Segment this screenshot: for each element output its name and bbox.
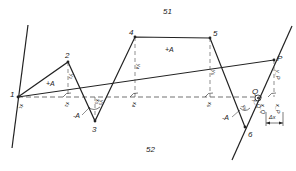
point-label-4: 4 <box>129 28 134 37</box>
yp-label: y_P <box>275 69 281 80</box>
area-label-plus-a-right: +A <box>165 46 174 53</box>
leader-minus-a-right <box>232 110 240 117</box>
x5-label: x₅ <box>207 101 213 108</box>
x4-label: x₄ <box>132 101 138 107</box>
point-5-dot <box>209 37 212 40</box>
x1-label: x₁ <box>19 103 25 109</box>
y4-label: y₄ <box>136 63 142 69</box>
y3-label: y₃ <box>99 99 105 106</box>
y2-label: y₂ <box>69 73 75 80</box>
closing-line-1-p <box>18 60 274 97</box>
region-label-51: 51 <box>163 7 172 16</box>
angle-mark-5 <box>205 93 213 97</box>
y5-label: y₅ <box>211 69 217 76</box>
point-label-p: P <box>277 54 283 63</box>
point-4-dot <box>134 36 137 39</box>
y6-label: y₆ <box>241 103 250 112</box>
point-p-dot <box>273 59 276 62</box>
leader-minus-a-left <box>82 107 90 115</box>
point-1-dot <box>17 96 20 99</box>
point-label-3: 3 <box>92 125 97 134</box>
point-3-dot <box>94 120 97 123</box>
x2-label: x₂ <box>65 101 71 108</box>
area-label-minus-a-right: -A <box>222 114 229 121</box>
delta-x-label: Δx <box>268 114 276 120</box>
xp-label: x_P <box>275 103 281 114</box>
left-boundary-line <box>12 25 28 148</box>
angle-mark-2 <box>63 93 71 97</box>
point-label-5: 5 <box>213 29 218 38</box>
point-label-q: Q <box>252 87 258 96</box>
area-label-minus-a-left: -A <box>73 112 80 119</box>
diagram-canvas: 51 52 1 2 3 4 5 6 P Q +A -A +A -A x₁ x₂ … <box>0 0 296 171</box>
angle-mark-4 <box>130 93 138 97</box>
region-label-52: 52 <box>146 145 155 154</box>
point-2-dot <box>67 61 70 64</box>
polygon-area-diagram: 51 52 1 2 3 4 5 6 P Q +A -A +A -A x₁ x₂ … <box>0 0 296 171</box>
area-label-plus-a-left: +A <box>46 80 55 87</box>
point-label-2: 2 <box>64 51 70 60</box>
right-boundary-line <box>232 26 292 160</box>
point-6-dot <box>244 126 247 129</box>
point-label-1: 1 <box>10 90 14 99</box>
angle-mark-p <box>268 93 276 97</box>
point-label-6: 6 <box>248 130 253 139</box>
